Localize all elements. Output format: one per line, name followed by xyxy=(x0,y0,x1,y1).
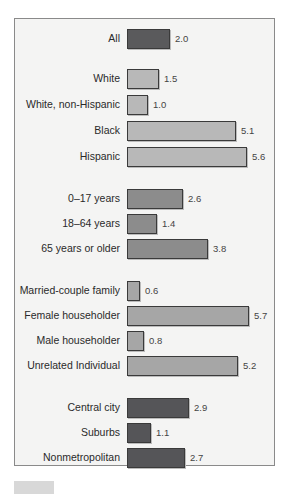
figure-caption-tab xyxy=(14,481,54,494)
category-label: Male householder xyxy=(37,334,120,346)
value-label: 1.0 xyxy=(153,99,166,110)
bar-row: 65 years or older3.8 xyxy=(14,239,284,261)
bar-row: Male householder0.8 xyxy=(14,331,284,353)
bar xyxy=(127,356,238,376)
bar xyxy=(127,29,170,49)
bar-row: Nonmetropolitan2.7 xyxy=(14,448,284,470)
value-label: 5.1 xyxy=(241,125,254,136)
value-label: 2.6 xyxy=(188,193,201,204)
bar xyxy=(127,239,208,259)
bar-row: White, non-Hispanic1.0 xyxy=(14,95,284,117)
bar-row: Female householder5.7 xyxy=(14,306,284,328)
category-label: White, non-Hispanic xyxy=(26,98,120,110)
value-label: 2.9 xyxy=(194,402,207,413)
category-label: Central city xyxy=(67,401,120,413)
bar xyxy=(127,95,148,115)
category-label: Female householder xyxy=(24,309,120,321)
category-label: 18–64 years xyxy=(62,217,120,229)
category-label: Hispanic xyxy=(80,150,120,162)
bar xyxy=(127,69,159,89)
category-label: 65 years or older xyxy=(41,242,120,254)
category-label: All xyxy=(108,32,120,44)
category-label: Suburbs xyxy=(81,426,120,438)
category-label: Nonmetropolitan xyxy=(43,451,120,463)
bar-row: Hispanic5.6 xyxy=(14,147,284,169)
value-label: 0.6 xyxy=(145,285,158,296)
bar xyxy=(127,448,185,468)
bar-row: Black5.1 xyxy=(14,121,284,143)
bar-row: 18–64 years1.4 xyxy=(14,214,284,236)
category-label: 0–17 years xyxy=(68,192,120,204)
bar-row: White1.5 xyxy=(14,69,284,91)
bar xyxy=(127,147,247,167)
value-label: 0.8 xyxy=(149,335,162,346)
bar-row: Suburbs1.1 xyxy=(14,423,284,445)
bar xyxy=(127,398,189,418)
category-label: White xyxy=(93,72,120,84)
bar-row: Unrelated Individual5.2 xyxy=(14,356,284,378)
bar-row: 0–17 years2.6 xyxy=(14,189,284,211)
bar-row: Central city2.9 xyxy=(14,398,284,420)
bar xyxy=(127,423,151,443)
value-label: 1.4 xyxy=(162,218,175,229)
bar xyxy=(127,331,144,351)
value-label: 5.7 xyxy=(254,310,267,321)
value-label: 2.7 xyxy=(190,452,203,463)
bar xyxy=(127,214,157,234)
value-label: 1.5 xyxy=(164,73,177,84)
value-label: 5.2 xyxy=(243,360,256,371)
value-label: 5.6 xyxy=(252,151,265,162)
value-label: 2.0 xyxy=(175,33,188,44)
category-label: Married-couple family xyxy=(20,284,120,296)
category-label: Unrelated Individual xyxy=(27,359,120,371)
category-label: Black xyxy=(94,124,120,136)
bar xyxy=(127,121,236,141)
bar xyxy=(127,189,183,209)
value-label: 1.1 xyxy=(156,427,169,438)
value-label: 3.8 xyxy=(213,243,226,254)
bar-row: All2.0 xyxy=(14,29,284,51)
bar xyxy=(127,281,140,301)
bar-row: Married-couple family0.6 xyxy=(14,281,284,303)
bar xyxy=(127,306,249,326)
